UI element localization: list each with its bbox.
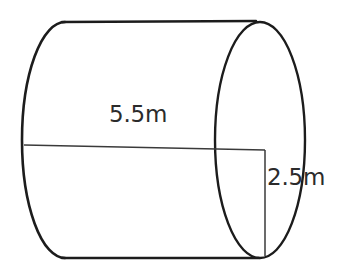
cylinder-drawing [0, 0, 340, 279]
cylinder-right-ellipse [215, 22, 305, 258]
cylinder-diagram: 5.5m 2.5m [0, 0, 340, 279]
cylinder-left-arc [22, 22, 65, 258]
length-dimension-line [24, 145, 265, 150]
cylinder-top-line [62, 21, 256, 22]
length-label: 5.5m [109, 103, 167, 126]
radius-label: 2.5m [267, 166, 325, 189]
